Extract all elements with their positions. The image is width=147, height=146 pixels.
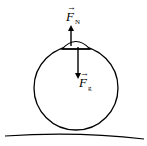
cap-object xyxy=(62,42,90,50)
ball-circle xyxy=(34,46,118,130)
ground-line xyxy=(5,134,144,139)
normal-force-label: → FN xyxy=(66,8,80,24)
gravity-force-label: → Fg xyxy=(79,74,91,90)
free-body-diagram: → FN → Fg xyxy=(0,0,147,146)
